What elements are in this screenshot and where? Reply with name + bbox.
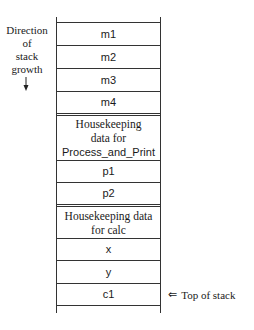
stack-cell-m2: m2 <box>56 46 161 68</box>
down-arrow-icon <box>22 77 30 91</box>
stack-cell-p2: p2 <box>56 183 161 204</box>
housekeeping-process-and-print: Housekeeping data for Process_and_Print <box>56 116 161 160</box>
hk-line: for calc <box>91 223 126 237</box>
hk-line: Housekeeping data <box>65 209 153 223</box>
hk-line: Housekeeping <box>76 117 142 131</box>
call-stack: m1 m2 m3 m4 Housekeeping data for Proces… <box>56 17 161 313</box>
frame-divider <box>56 113 161 114</box>
cell-label: m1 <box>101 28 116 41</box>
stack-cell-y: y <box>56 261 161 283</box>
top-of-stack-label: Top of stack <box>181 289 235 301</box>
growth-word: growth <box>4 63 50 76</box>
housekeeping-calc: Housekeeping data for calc <box>56 207 161 238</box>
direction-of-growth-label: Direction of stack growth <box>4 24 50 76</box>
cell-label: c1 <box>103 288 115 301</box>
cell-label: m2 <box>101 51 116 64</box>
of-word: of <box>4 37 50 50</box>
divider <box>56 305 161 306</box>
hk-line: Process_and_Print <box>62 145 155 159</box>
stack-cell-m3: m3 <box>56 69 161 91</box>
stack-cell-c1: c1 <box>56 284 161 305</box>
stack-cell-p1: p1 <box>56 161 161 182</box>
stack-cell-x: x <box>56 239 161 260</box>
cell-label: m3 <box>101 74 116 87</box>
top-of-stack-indicator: ⇐ Top of stack <box>168 288 235 301</box>
cell-label: x <box>106 243 112 256</box>
direction-word: Direction <box>4 24 50 37</box>
stack-word: stack <box>4 50 50 63</box>
cell-label: m4 <box>101 96 116 109</box>
cell-label: p1 <box>102 165 114 178</box>
left-double-arrow-icon: ⇐ <box>168 288 177 301</box>
stack-cell-m4: m4 <box>56 92 161 113</box>
cell-label: p2 <box>102 187 114 200</box>
stack-cell-m1: m1 <box>56 23 161 45</box>
hk-line: data for <box>91 131 126 145</box>
frame-divider <box>56 204 161 205</box>
cell-label: y <box>106 266 112 279</box>
